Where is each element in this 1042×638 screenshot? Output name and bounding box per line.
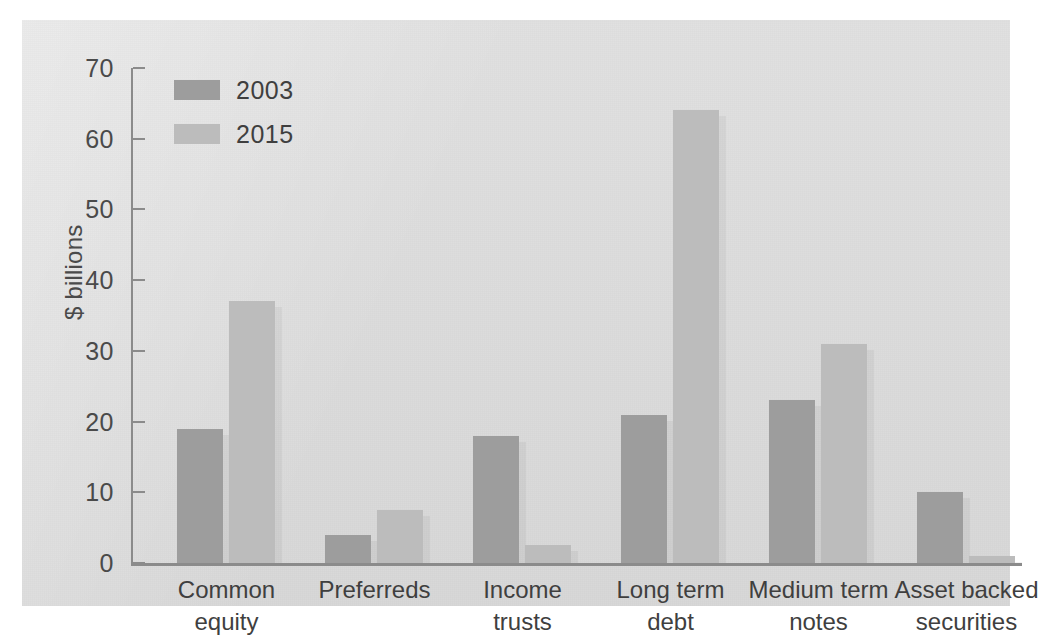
bar-face: [525, 545, 571, 563]
bar-face: [673, 110, 719, 563]
bar-2015-5: [821, 344, 867, 563]
y-tick-mark: [133, 279, 145, 281]
bar-2003-4: [621, 415, 667, 564]
bar-group: [769, 68, 874, 563]
y-tick-mark: [133, 562, 145, 564]
bar-group: [325, 68, 430, 563]
y-tick-mark: [133, 67, 145, 69]
chart-legend: 2003 2015: [174, 72, 294, 160]
bar-group: [473, 68, 578, 563]
bar-2015-1: [229, 301, 275, 563]
y-tick-mark: [133, 350, 145, 352]
bar-2003-1: [177, 429, 223, 563]
bar-2015-4: [673, 110, 719, 563]
y-tick-mark: [133, 491, 145, 493]
bar-2015-2: [377, 510, 423, 563]
legend-label-2003: 2003: [236, 76, 294, 105]
y-axis-line: [131, 68, 133, 563]
y-tick-mark: [133, 421, 145, 423]
y-tick-label: 30: [85, 336, 114, 365]
bar-face: [621, 415, 667, 564]
category-label-6: Asset backed securities: [862, 574, 1042, 638]
y-tick-label: 20: [85, 407, 114, 436]
bar-face: [969, 556, 1015, 563]
legend-swatch-2003: [174, 80, 220, 100]
bar-group: [917, 68, 1022, 563]
bar-face: [229, 301, 275, 563]
legend-item-2015: 2015: [174, 116, 294, 152]
y-tick-label: 50: [85, 195, 114, 224]
bar-face: [377, 510, 423, 563]
bar-face: [769, 400, 815, 563]
x-axis-line: [131, 563, 1022, 566]
chart-figure-panel: $ billions 2003 2015 010203040506070 Com…: [22, 20, 1010, 606]
y-tick-mark: [133, 208, 145, 210]
y-tick-label: 60: [85, 124, 114, 153]
legend-item-2003: 2003: [174, 72, 294, 108]
bar-group: [621, 68, 726, 563]
y-tick-label: 70: [85, 54, 114, 83]
bar-face: [821, 344, 867, 563]
bar-face: [917, 492, 963, 563]
legend-swatch-2015: [174, 124, 220, 144]
bar-face: [177, 429, 223, 563]
bar-2003-2: [325, 535, 371, 563]
bar-2003-5: [769, 400, 815, 563]
y-tick-label: 0: [100, 549, 114, 578]
bar-face: [325, 535, 371, 563]
bar-2015-6: [969, 556, 1015, 563]
y-tick-label: 10: [85, 478, 114, 507]
bar-2003-6: [917, 492, 963, 563]
y-tick-mark: [133, 138, 145, 140]
bar-2015-3: [525, 545, 571, 563]
bar-2003-3: [473, 436, 519, 563]
y-tick-label: 40: [85, 266, 114, 295]
y-axis-title: $ billions: [60, 225, 88, 320]
bar-face: [473, 436, 519, 563]
legend-label-2015: 2015: [236, 120, 294, 149]
